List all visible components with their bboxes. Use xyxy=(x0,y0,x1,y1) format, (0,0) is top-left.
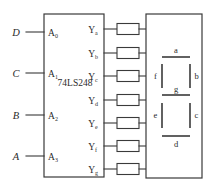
input-wires xyxy=(26,32,44,156)
segment-label-a: a xyxy=(174,45,178,55)
pin-label-Yb-subscript: b xyxy=(95,54,98,60)
resistor-f xyxy=(117,141,139,152)
segment-label-b: b xyxy=(194,71,198,81)
input-label-B: B xyxy=(13,110,20,121)
resistor-b xyxy=(117,48,139,59)
pin-label-A1: A xyxy=(48,69,55,79)
pin-label-Ye-subscript: e xyxy=(95,124,98,130)
pin-label-A3-subscript: 3 xyxy=(55,157,58,163)
segment-label-f: f xyxy=(154,71,157,81)
segment-label-c: c xyxy=(195,110,199,120)
pin-label-A0-subscript: 0 xyxy=(55,33,58,39)
pin-label-A2: A xyxy=(48,111,55,121)
resistor-g xyxy=(117,164,139,175)
pin-label-Ya-subscript: a xyxy=(95,30,98,36)
pin-label-Yf-subscript: f xyxy=(95,147,97,153)
seven-segment-display-body xyxy=(146,14,202,178)
input-label-A: A xyxy=(12,151,20,162)
segment-label-e: e xyxy=(154,110,158,120)
resistor-e xyxy=(117,118,139,129)
input-label-C: C xyxy=(12,68,20,79)
pin-label-A3: A xyxy=(48,152,55,162)
input-label-D: D xyxy=(11,27,20,38)
pin-label-A2-subscript: 2 xyxy=(55,116,58,122)
pin-label-Yc-subscript: c xyxy=(95,77,98,83)
pin-label-A0: A xyxy=(48,28,55,38)
pin-label-Yd-subscript: d xyxy=(95,101,98,107)
pin-label-Yg-subscript: g xyxy=(95,170,98,176)
circuit-diagram-canvas: D C B A A 0 A 1 A 2 A 3 74LS248 Y a Y b … xyxy=(0,0,218,195)
resistor-c xyxy=(117,71,139,82)
resistor-a xyxy=(117,24,139,35)
resistor-d xyxy=(117,95,139,106)
